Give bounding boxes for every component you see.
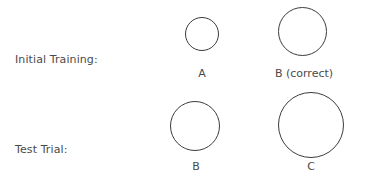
circle-b [170, 101, 220, 151]
circle-c-label: C [307, 160, 315, 173]
circle-b-correct-label: B (correct) [275, 67, 333, 80]
circle-b-correct [278, 7, 327, 56]
circle-a [185, 17, 219, 51]
circle-c [278, 92, 344, 158]
circle-b-label: B [192, 160, 200, 173]
row-label-initial-training: Initial Training: [15, 53, 98, 66]
circle-a-label: A [198, 67, 206, 80]
row-label-test-trial: Test Trial: [15, 143, 67, 156]
